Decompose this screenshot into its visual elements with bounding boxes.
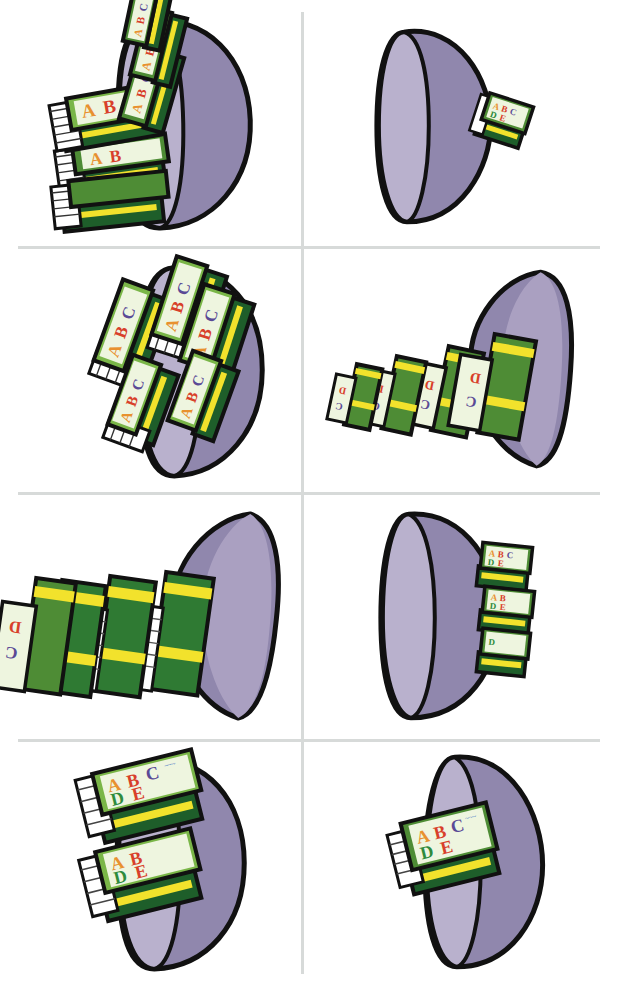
panel-2-illustration: A B C D E (309, 0, 617, 246)
divider-row-3 (18, 739, 600, 742)
book-row-4: D C (0, 568, 214, 697)
panel-8[interactable]: A B C D E ~~~ (309, 739, 617, 986)
book-row-4: D C D C (326, 329, 536, 440)
panel-5[interactable]: D C (0, 492, 309, 739)
worksheet-canvas: A B A B C (0, 0, 617, 986)
svg-text:C: C (506, 550, 513, 561)
panel-3-illustration: A B C A B C (0, 246, 309, 492)
panel-7[interactable]: A B D E A B C D (0, 739, 309, 986)
panel-1[interactable]: A B A B C (0, 0, 309, 246)
svg-text:E: E (499, 602, 506, 613)
svg-text:E: E (497, 558, 504, 569)
panel-8-illustration: A B C D E ~~~ (309, 739, 617, 986)
panel-7-illustration: A B D E A B C D (0, 739, 309, 986)
panel-3[interactable]: A B C A B C (0, 246, 309, 492)
svg-text:C: C (4, 643, 19, 664)
panel-1-illustration: A B A B C (0, 0, 309, 246)
divider-row-2 (18, 492, 600, 495)
panel-4[interactable]: D C D C (309, 246, 617, 492)
book-stack-6: A B A B C (48, 0, 187, 233)
panel-4-illustration: D C D C (309, 246, 617, 492)
book-stack-3: A B C D E A B D E (476, 542, 534, 677)
panel-6[interactable]: A B C D E A B D E (309, 492, 617, 739)
panel-2[interactable]: A B C D E (309, 0, 617, 246)
panel-6-illustration: A B C D E A B D E (309, 492, 617, 739)
divider-row-1 (18, 246, 600, 249)
divider-column (301, 12, 304, 974)
panel-5-illustration: D C (0, 492, 309, 739)
svg-text:D: D (8, 617, 23, 638)
